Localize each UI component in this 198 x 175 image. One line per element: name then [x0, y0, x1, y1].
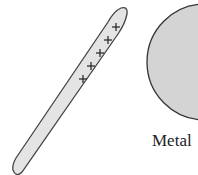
sphere-label: Metal: [152, 131, 192, 151]
diagram-canvas: Metal: [0, 0, 198, 175]
charged-rod: [13, 8, 127, 175]
metal-sphere: [147, 4, 198, 120]
